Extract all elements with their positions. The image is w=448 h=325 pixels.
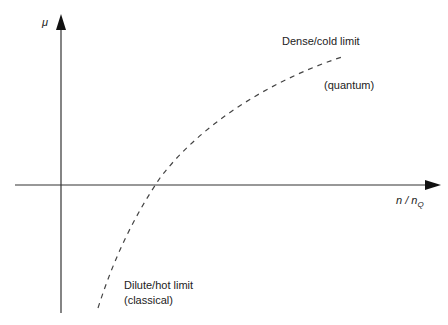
diagram-canvas bbox=[0, 0, 448, 325]
quantum-label: (quantum) bbox=[324, 79, 374, 92]
y-axis-label: μ bbox=[42, 16, 48, 29]
dilute-limit-label: Dilute/hot limit bbox=[124, 279, 193, 292]
x-axis-label: n / nQ bbox=[396, 194, 424, 211]
x-axis-label-subscript: Q bbox=[417, 200, 423, 209]
y-axis-arrow-icon bbox=[56, 14, 66, 30]
chemical-potential-curve bbox=[98, 56, 345, 308]
classical-label: (classical) bbox=[124, 294, 173, 307]
dense-limit-label: Dense/cold limit bbox=[282, 35, 360, 48]
x-axis-arrow-icon bbox=[425, 180, 441, 190]
x-axis bbox=[15, 180, 441, 190]
x-axis-label-main: n / n bbox=[396, 194, 417, 206]
y-axis bbox=[56, 14, 66, 313]
